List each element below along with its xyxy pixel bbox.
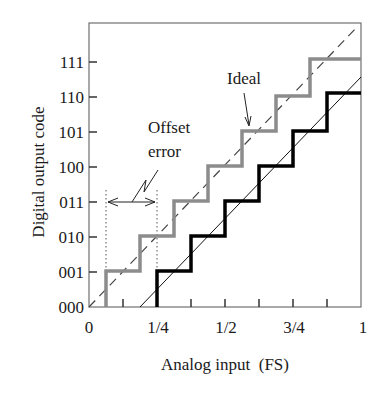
y-tick-111: 111 <box>60 53 84 72</box>
x-tick-1: 1 <box>359 318 368 337</box>
x-axis-title: Analog input (FS) <box>161 355 289 374</box>
y-ticks <box>89 62 97 272</box>
y-tick-labels: 000 001 010 011 100 101 110 111 <box>59 53 85 317</box>
x-tick-1-4: 1/4 <box>147 318 169 337</box>
offset-guides <box>106 190 157 307</box>
x-tick-0: 0 <box>85 318 94 337</box>
lightning-leader <box>132 170 158 202</box>
offset-error-arrow <box>108 170 158 206</box>
y-tick-001: 001 <box>59 263 85 282</box>
y-tick-101: 101 <box>59 123 85 142</box>
offset-label-line2: error <box>148 142 181 161</box>
ideal-arrow <box>244 93 251 126</box>
y-tick-011: 011 <box>59 193 84 212</box>
y-tick-000: 000 <box>59 298 85 317</box>
ideal-label: Ideal <box>227 69 261 88</box>
x-tick-3-4: 3/4 <box>283 318 305 337</box>
y-tick-010: 010 <box>59 228 85 247</box>
y-tick-100: 100 <box>59 158 85 177</box>
offset-label-line1: Offset <box>148 118 190 137</box>
x-tick-1-2: 1/2 <box>215 318 237 337</box>
y-axis-title: Digital output code <box>29 106 48 237</box>
y-tick-110: 110 <box>59 88 84 107</box>
x-tick-labels: 0 1/4 1/2 3/4 1 <box>85 318 368 337</box>
adc-offset-error-chart: 000 001 010 011 100 101 110 111 0 1/4 1/… <box>0 0 386 393</box>
x-ticks <box>123 299 327 307</box>
